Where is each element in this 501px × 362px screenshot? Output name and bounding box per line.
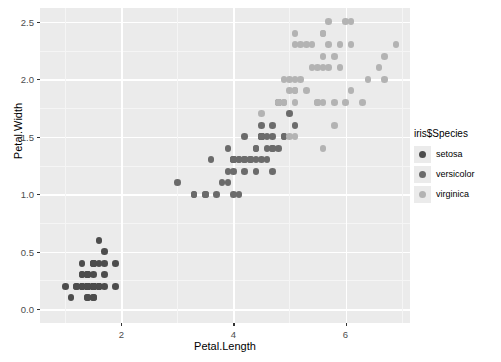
gridline-vertical-minor — [65, 8, 66, 323]
y-tick-label: 1.5 — [2, 131, 34, 142]
data-point-virginica — [297, 41, 304, 48]
data-point-versicolor — [236, 191, 243, 198]
data-point-virginica — [281, 76, 288, 83]
data-point-setosa — [101, 271, 108, 278]
data-point-setosa — [112, 283, 119, 290]
data-point-setosa — [90, 294, 97, 301]
gridline-horizontal-minor — [40, 166, 410, 167]
data-point-setosa — [96, 237, 103, 244]
data-point-versicolor — [258, 133, 265, 140]
x-tick-label: 4 — [231, 329, 236, 340]
data-point-versicolor — [225, 145, 232, 152]
data-point-versicolor — [269, 122, 276, 129]
data-point-virginica — [381, 53, 388, 60]
data-point-setosa — [101, 260, 108, 267]
data-point-setosa — [90, 271, 97, 278]
y-tick-label: 0.5 — [2, 246, 34, 257]
data-point-setosa — [62, 283, 69, 290]
gridline-horizontal-major — [40, 194, 410, 196]
data-point-virginica — [348, 18, 355, 25]
data-point-virginica — [292, 99, 299, 106]
legend-item-label: versicolor — [436, 169, 475, 179]
y-tick-mark — [37, 22, 40, 23]
data-point-versicolor — [253, 145, 260, 152]
y-tick-mark — [37, 309, 40, 310]
gridline-horizontal-major — [40, 22, 410, 24]
data-point-versicolor — [230, 168, 237, 175]
data-point-virginica — [292, 30, 299, 37]
data-point-virginica — [325, 64, 332, 71]
x-tick-mark — [121, 323, 122, 326]
data-point-virginica — [325, 18, 332, 25]
data-point-versicolor — [264, 156, 271, 163]
data-point-setosa — [101, 283, 108, 290]
data-point-virginica — [286, 87, 293, 94]
y-tick-mark — [37, 137, 40, 138]
x-axis-label: Petal.Length — [40, 340, 410, 352]
gridline-vertical-minor — [289, 8, 290, 323]
legend-item-label: setosa — [436, 149, 463, 159]
gridline-horizontal-minor — [40, 108, 410, 109]
data-point-versicolor — [219, 179, 226, 186]
data-point-virginica — [309, 41, 316, 48]
data-point-setosa — [96, 260, 103, 267]
data-point-setosa — [68, 294, 75, 301]
data-point-versicolor — [202, 191, 209, 198]
legend: iris$Species setosaversicolorvirginica — [414, 128, 500, 205]
y-tick-mark — [37, 252, 40, 253]
data-point-versicolor — [258, 122, 265, 129]
data-point-virginica — [292, 133, 299, 140]
gridline-horizontal-major — [40, 309, 410, 311]
data-point-versicolor — [225, 179, 232, 186]
legend-item-versicolor[interactable]: versicolor — [414, 165, 500, 183]
x-tick-mark — [233, 323, 234, 326]
data-point-versicolor — [191, 191, 198, 198]
legend-item-setosa[interactable]: setosa — [414, 145, 500, 163]
y-tick-label: 1.0 — [2, 189, 34, 200]
data-point-versicolor — [241, 133, 248, 140]
data-point-versicolor — [208, 156, 215, 163]
legend-items: setosaversicolorvirginica — [414, 145, 500, 203]
data-point-virginica — [258, 110, 265, 117]
data-point-virginica — [325, 41, 332, 48]
gridline-horizontal-major — [40, 79, 410, 81]
gridline-horizontal-minor — [40, 51, 410, 52]
data-point-virginica — [281, 99, 288, 106]
legend-dot-icon — [419, 191, 426, 198]
legend-item-virginica[interactable]: virginica — [414, 185, 500, 203]
data-point-setosa — [90, 283, 97, 290]
data-point-setosa — [101, 248, 108, 255]
x-tick-mark — [346, 323, 347, 326]
data-point-virginica — [331, 122, 338, 129]
data-point-setosa — [112, 260, 119, 267]
data-point-virginica — [393, 41, 400, 48]
data-point-versicolor — [253, 156, 260, 163]
data-point-versicolor — [286, 110, 293, 117]
data-point-virginica — [331, 99, 338, 106]
legend-key-swatch — [414, 186, 431, 203]
scatter-plot-figure: Petal.Length Petal.Width iris$Species se… — [0, 0, 501, 362]
data-point-versicolor — [247, 156, 254, 163]
data-point-setosa — [84, 283, 91, 290]
data-point-virginica — [303, 87, 310, 94]
legend-key-swatch — [414, 146, 431, 163]
gridline-vertical-minor — [177, 8, 178, 323]
data-point-virginica — [348, 87, 355, 94]
data-point-virginica — [337, 41, 344, 48]
y-tick-mark — [37, 194, 40, 195]
x-tick-label: 6 — [343, 329, 348, 340]
legend-key-swatch — [414, 166, 431, 183]
plot-panel — [40, 8, 410, 323]
legend-item-label: virginica — [436, 189, 469, 199]
data-point-versicolor — [174, 179, 181, 186]
gridline-horizontal-major — [40, 252, 410, 254]
y-tick-mark — [37, 79, 40, 80]
data-point-virginica — [365, 76, 372, 83]
data-point-virginica — [381, 76, 388, 83]
data-point-setosa — [96, 283, 103, 290]
data-point-virginica — [337, 64, 344, 71]
data-point-virginica — [331, 53, 338, 60]
data-point-virginica — [342, 99, 349, 106]
data-point-virginica — [286, 76, 293, 83]
data-point-versicolor — [269, 168, 276, 175]
